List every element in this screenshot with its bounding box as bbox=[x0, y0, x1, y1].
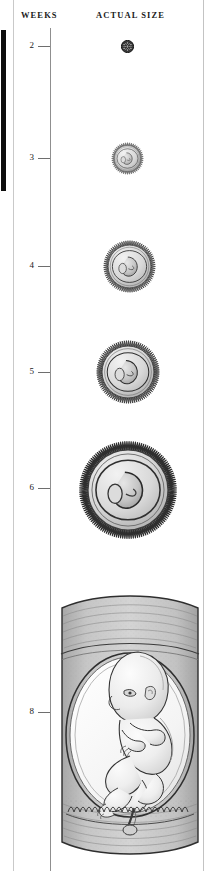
stage-illustration-week-2 bbox=[121, 40, 134, 53]
embryo-size-figure: WEEKS ACTUAL SIZE 234568 bbox=[0, 0, 213, 871]
page-rule-right bbox=[203, 0, 204, 871]
week-label-8: 8 bbox=[18, 707, 34, 716]
column-header-weeks: WEEKS bbox=[21, 10, 58, 20]
week-tick-2 bbox=[38, 46, 50, 47]
week-label-4: 4 bbox=[18, 261, 34, 270]
week-tick-5 bbox=[38, 372, 50, 373]
page-edge-black-bar bbox=[1, 30, 6, 191]
week-tick-3 bbox=[38, 158, 50, 159]
weeks-axis-line bbox=[50, 28, 51, 871]
stage-illustration-week-4 bbox=[103, 240, 156, 293]
stage-illustration-week-3 bbox=[111, 142, 144, 175]
stage-illustration-week-5 bbox=[96, 340, 160, 404]
stage-illustration-week-6 bbox=[79, 441, 177, 539]
column-header-actual-size: ACTUAL SIZE bbox=[96, 10, 165, 20]
week-label-2: 2 bbox=[18, 41, 34, 50]
week-tick-8 bbox=[38, 712, 50, 713]
page-rule-left bbox=[13, 0, 14, 871]
week-label-6: 6 bbox=[18, 483, 34, 492]
week-tick-4 bbox=[38, 266, 50, 267]
week-tick-6 bbox=[38, 488, 50, 489]
stage-illustration-week-8 bbox=[60, 590, 200, 860]
week-label-5: 5 bbox=[18, 367, 34, 376]
week-label-3: 3 bbox=[18, 153, 34, 162]
